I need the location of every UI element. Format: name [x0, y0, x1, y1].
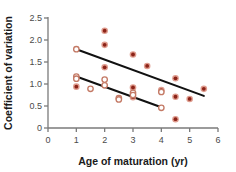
y-tick-label: 0.5	[29, 101, 42, 111]
y-tick-label: 2.5	[29, 13, 42, 23]
trendlines-layer	[76, 49, 203, 107]
data-point-open	[159, 105, 164, 110]
data-point-filled	[174, 76, 178, 80]
data-point-filled	[131, 86, 135, 90]
y-tick-label: 1.5	[29, 57, 42, 67]
x-tick-label: 3	[130, 135, 135, 145]
data-point-filled	[131, 53, 135, 57]
y-tick-label: 1.0	[29, 79, 42, 89]
x-axis-title: Age of maturation (yr)	[78, 155, 188, 167]
data-point-filled	[174, 95, 178, 99]
data-point-open	[130, 92, 135, 97]
data-point-filled	[145, 64, 149, 68]
y-tick-label: 2.0	[29, 35, 42, 45]
data-point-filled	[103, 65, 107, 69]
data-point-filled	[202, 87, 206, 91]
data-point-filled	[103, 43, 107, 47]
y-tick-label: 0	[37, 123, 42, 133]
x-tick-label: 0	[45, 135, 50, 145]
data-point-open	[102, 77, 107, 82]
data-point-open	[88, 86, 93, 91]
x-tick-label: 4	[159, 135, 164, 145]
data-points-layer	[73, 27, 207, 122]
data-point-open	[102, 83, 107, 88]
scatter-plot-figure: 00.51.01.52.02.50123456Age of maturation…	[0, 0, 236, 172]
upper-trendline	[76, 49, 203, 96]
x-tick-label: 2	[102, 135, 107, 145]
x-tick-label: 1	[74, 135, 79, 145]
data-point-filled	[188, 97, 192, 101]
y-axis-title: Coefficient of variation	[2, 16, 14, 130]
data-point-filled	[74, 85, 78, 89]
x-tick-label: 5	[187, 135, 192, 145]
x-tick-label: 6	[215, 135, 220, 145]
data-point-open	[159, 89, 164, 94]
data-point-filled	[103, 29, 107, 33]
axes-layer	[44, 17, 218, 132]
data-point-open	[116, 97, 121, 102]
data-point-open	[74, 76, 79, 81]
data-point-filled	[174, 117, 178, 121]
plot-canvas: 00.51.01.52.02.50123456Age of maturation…	[0, 0, 236, 172]
data-point-open	[74, 47, 79, 52]
